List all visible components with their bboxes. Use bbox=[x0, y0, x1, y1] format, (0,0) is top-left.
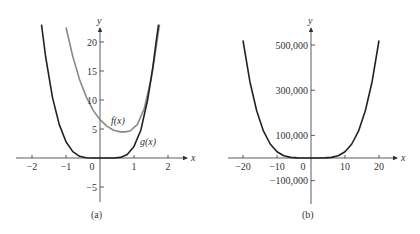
y-tick-label: 5 bbox=[92, 124, 97, 135]
x-tick-label: −1 bbox=[61, 161, 72, 172]
x-tick-label: 2 bbox=[166, 161, 171, 172]
g-label: g(x) bbox=[140, 136, 157, 148]
panel-a-label: (a) bbox=[91, 209, 102, 221]
panel-a: −2−10122015105−5 x y f(x) g(x) (a) bbox=[16, 15, 196, 221]
x-axis-label: x bbox=[190, 152, 196, 163]
y-tick-label: 500,000 bbox=[276, 40, 309, 51]
y-tick-label: 300,000 bbox=[276, 85, 309, 96]
x-tick-label: 1 bbox=[132, 161, 137, 172]
y-tick-label: 15 bbox=[87, 66, 97, 77]
y-axis-label: y bbox=[307, 15, 313, 26]
panel-b: −20−1001020500,000300,000100,000−100,000… bbox=[228, 15, 406, 221]
x-tick-label: 20 bbox=[374, 161, 384, 172]
x-tick-label: −20 bbox=[235, 161, 251, 172]
y-tick-label: −100,000 bbox=[270, 175, 308, 186]
x-tick-label: −2 bbox=[27, 161, 38, 172]
x-tick-label: 0 bbox=[301, 161, 306, 172]
f-label: f(x) bbox=[111, 115, 126, 127]
panel-b-label: (b) bbox=[302, 209, 314, 221]
x-axis-label: x bbox=[400, 152, 406, 163]
figure: −2−10122015105−5 x y f(x) g(x) (a) −20−1… bbox=[0, 0, 420, 234]
y-tick-label: 100,000 bbox=[276, 130, 309, 141]
y-tick-label: 20 bbox=[87, 37, 97, 48]
x-tick-label: 0 bbox=[90, 161, 95, 172]
y-tick-label: −5 bbox=[86, 182, 97, 193]
y-axis-label: y bbox=[96, 15, 102, 26]
x-tick-label: 10 bbox=[340, 161, 350, 172]
y-tick-label: 10 bbox=[87, 95, 97, 106]
x-tick-label: −10 bbox=[269, 161, 285, 172]
